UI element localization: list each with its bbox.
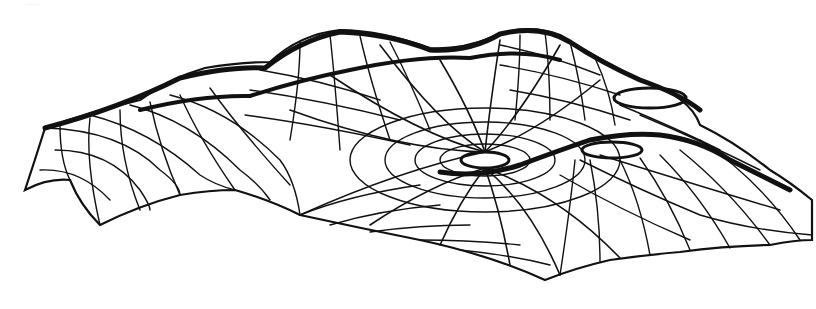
radial-lines-center: [290, 40, 620, 275]
right-region-grid: [560, 105, 812, 275]
membrane-mesh-drawing: [0, 0, 816, 309]
right-ring-opening: [614, 88, 686, 108]
central-opening: [461, 152, 509, 168]
center-right-dome-grid: [500, 32, 630, 125]
left-dome-grid: [40, 88, 300, 225]
mesh-boundary: [25, 29, 812, 280]
right-lower-ring: [582, 142, 642, 158]
center-left-dome-grid: [245, 35, 430, 150]
